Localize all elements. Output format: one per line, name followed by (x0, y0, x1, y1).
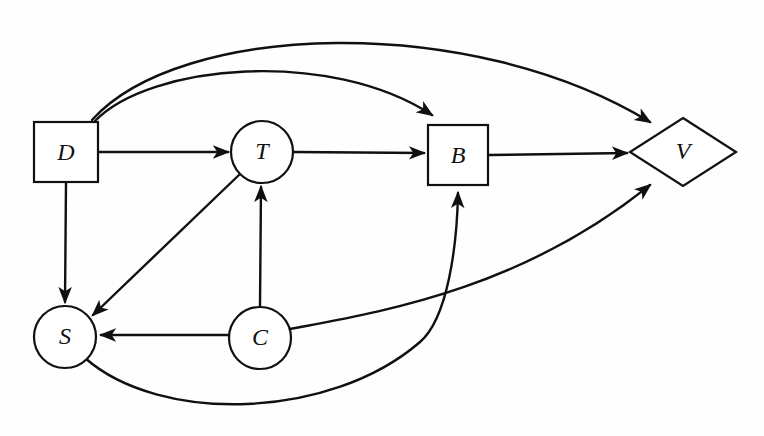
edge-c-to-v (290, 185, 650, 329)
edge-d-to-s (65, 183, 66, 302)
node-c-label: C (252, 324, 269, 350)
node-t[interactable]: T (231, 121, 293, 183)
node-d-label: D (56, 139, 74, 165)
graph-canvas: D T B V S (0, 0, 764, 436)
edge-d-to-b (95, 71, 432, 121)
edge-s-to-b (85, 193, 458, 404)
node-t-label: T (255, 138, 270, 164)
node-v[interactable]: V (630, 118, 736, 186)
node-d[interactable]: D (34, 122, 98, 182)
edge-b-to-v (489, 153, 627, 155)
node-s[interactable]: S (34, 306, 96, 368)
diagram-root: D T B V S (0, 0, 764, 436)
edge-t-to-b (293, 152, 424, 153)
node-b[interactable]: B (428, 125, 488, 185)
nodes-layer: D T B V S (34, 118, 736, 369)
edge-d-to-v (92, 43, 650, 122)
edges-layer (65, 43, 650, 404)
node-v-label: V (676, 138, 693, 164)
node-c[interactable]: C (229, 307, 291, 369)
edge-t-to-s (93, 174, 240, 315)
node-b-label: B (451, 142, 466, 168)
node-s-label: S (59, 323, 71, 349)
edge-c-to-t (260, 187, 261, 307)
